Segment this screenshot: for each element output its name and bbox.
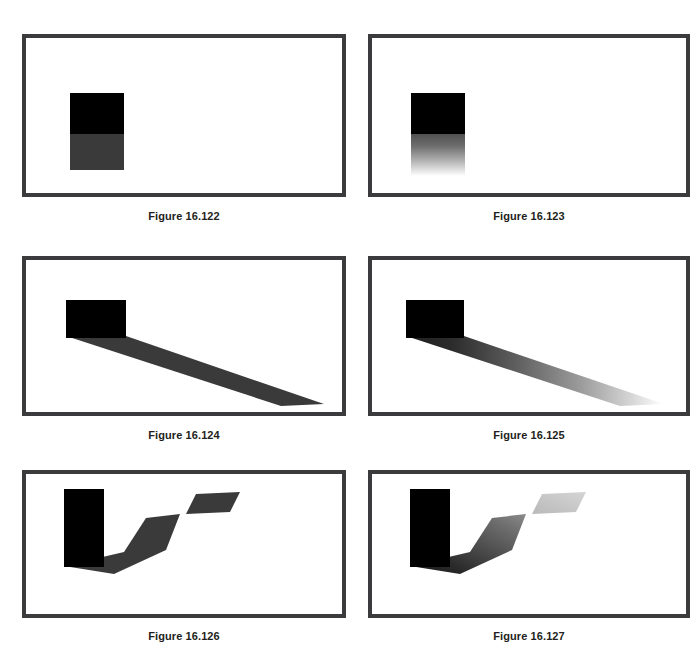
scene-16-123 — [372, 38, 686, 193]
occluder-rectangle — [411, 93, 465, 134]
scene-svg-16-126 — [26, 474, 342, 614]
occluder-rectangle — [410, 489, 450, 567]
figure-caption-16-126: Figure 16.126 — [22, 630, 346, 642]
figure-grid: Figure 16.122 Figure 16.123 Figure 16.12… — [0, 0, 697, 646]
scene-16-122 — [26, 38, 342, 193]
figure-frame-16-123 — [368, 34, 690, 197]
figure-cell-16-122: Figure 16.122 — [22, 34, 346, 239]
figure-caption-16-122: Figure 16.122 — [22, 210, 346, 222]
occluder-rectangle — [70, 93, 124, 134]
scene-svg-16-127 — [372, 474, 686, 614]
occluder-square — [406, 300, 464, 338]
soft-detached-shadow-patch — [532, 492, 586, 514]
figure-cell-16-125: Figure 16.125 — [368, 256, 690, 461]
scene-16-125 — [372, 260, 686, 412]
scene-svg-16-125 — [372, 260, 686, 412]
figure-caption-16-127: Figure 16.127 — [368, 630, 690, 642]
scene-16-124 — [26, 260, 342, 412]
figure-frame-16-127 — [368, 470, 690, 618]
scene-svg-16-124 — [26, 260, 342, 412]
figure-frame-16-124 — [22, 256, 346, 416]
figure-frame-16-122 — [22, 34, 346, 197]
figure-caption-16-123: Figure 16.123 — [368, 210, 690, 222]
figure-caption-16-125: Figure 16.125 — [368, 429, 690, 441]
occluder-square — [66, 300, 126, 338]
hard-detached-shadow-patch — [186, 492, 240, 514]
soft-wedge-shadow — [406, 336, 664, 406]
figure-frame-16-126 — [22, 470, 346, 618]
figure-cell-16-124: Figure 16.124 — [22, 256, 346, 461]
scene-16-127 — [372, 474, 686, 614]
figure-caption-16-124: Figure 16.124 — [22, 429, 346, 441]
hard-wedge-shadow — [66, 336, 324, 406]
figure-frame-16-125 — [368, 256, 690, 416]
occluder-rectangle — [64, 489, 104, 567]
figure-cell-16-123: Figure 16.123 — [368, 34, 690, 239]
figure-cell-16-127: Figure 16.127 — [368, 470, 690, 646]
scene-16-126 — [26, 474, 342, 614]
figure-cell-16-126: Figure 16.126 — [22, 470, 346, 646]
